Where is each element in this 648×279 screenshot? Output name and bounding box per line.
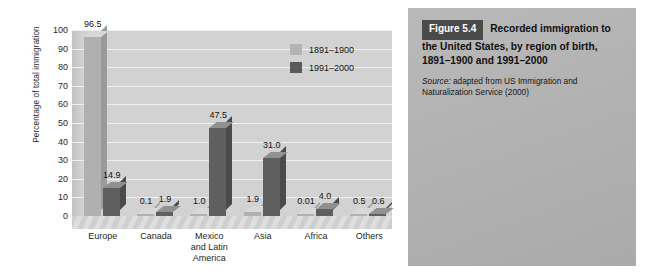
bar-front-face <box>350 214 367 216</box>
bar-front-face <box>84 37 101 216</box>
bar-value-label: 1.0 <box>193 196 206 206</box>
bar-chart-figure: Percentage of total immigration 10090807… <box>0 0 404 279</box>
bar-front-face <box>263 158 280 216</box>
source-label: Source: <box>422 76 451 86</box>
bar-value-label: 47.5 <box>210 110 228 120</box>
bar-series2 <box>369 214 386 216</box>
bar-series2 <box>103 188 120 216</box>
bar-value-label: 31.0 <box>263 140 281 150</box>
bar-front-face <box>209 128 226 216</box>
caption-body: Figure 5.4Recorded immigration to the Un… <box>408 8 636 99</box>
bar-value-label: 4.0 <box>319 191 332 201</box>
bar-series1 <box>84 37 101 216</box>
y-tick-label: 80 <box>42 62 68 72</box>
bar-front-face <box>244 212 261 216</box>
chart-legend: 1891–1900 1991–2000 <box>290 42 386 78</box>
figure-caption-panel: Figure 5.4Recorded immigration to the Un… <box>408 8 636 266</box>
legend-swatch-series1 <box>290 44 302 55</box>
x-category-label: Others <box>332 231 406 242</box>
bar-side-face <box>226 116 232 210</box>
bar-series2 <box>156 212 173 216</box>
y-tick-label: 30 <box>42 155 68 165</box>
legend-label-series1: 1891–1900 <box>309 45 354 55</box>
legend-swatch-series2 <box>290 62 302 73</box>
caption-source: Source: adapted from US Immigration and … <box>422 76 622 99</box>
bar-value-label: 1.9 <box>246 194 259 204</box>
y-tick-label: 60 <box>42 99 68 109</box>
bar-value-label: 0.5 <box>353 196 366 206</box>
figure-number-badge: Figure 5.4 <box>422 20 483 40</box>
x-axis-category-labels: EuropeCanadaMexicoand LatinAmericaAsiaAf… <box>72 231 392 277</box>
y-tick-label: 100 <box>42 25 68 35</box>
bar-series1 <box>190 214 207 216</box>
bar-series1 <box>137 214 154 216</box>
plot-floor <box>72 216 392 229</box>
bar-value-label: 96.5 <box>84 19 102 29</box>
bar-front-face <box>137 214 154 216</box>
bar-front-face <box>103 188 120 216</box>
bar-series1 <box>350 214 367 216</box>
bar-front-face <box>369 214 386 216</box>
bar-series1 <box>297 214 314 216</box>
legend-label-series2: 1991–2000 <box>309 63 354 73</box>
bar-series2 <box>209 128 226 216</box>
bar-value-label: 0.6 <box>372 196 385 206</box>
legend-item: 1991–2000 <box>290 60 386 75</box>
legend-item: 1891–1900 <box>290 42 386 57</box>
bar-value-label: 0.01 <box>297 196 315 206</box>
bar-top-face <box>156 206 181 212</box>
bar-value-label: 0.1 <box>140 196 153 206</box>
bar-front-face <box>190 214 207 216</box>
y-tick-label: 70 <box>42 81 68 91</box>
bar-front-face <box>297 214 314 216</box>
bar-front-face <box>316 209 333 216</box>
bar-front-face <box>156 212 173 216</box>
bar-side-face <box>101 25 107 210</box>
bar-series1 <box>244 212 261 216</box>
bar-series2 <box>316 209 333 216</box>
y-tick-label: 20 <box>42 174 68 184</box>
y-axis-tick-labels: 1009080706050403020100 <box>40 30 68 216</box>
y-tick-label: 50 <box>42 118 68 128</box>
caption-title-block: Figure 5.4Recorded immigration to the Un… <box>422 20 622 69</box>
bar-series2 <box>263 158 280 216</box>
y-tick-label: 0 <box>42 211 68 221</box>
bar-value-label: 14.9 <box>103 170 121 180</box>
bar-value-label: 1.9 <box>159 194 172 204</box>
y-tick-label: 10 <box>42 192 68 202</box>
y-tick-label: 90 <box>42 44 68 54</box>
y-tick-label: 40 <box>42 137 68 147</box>
